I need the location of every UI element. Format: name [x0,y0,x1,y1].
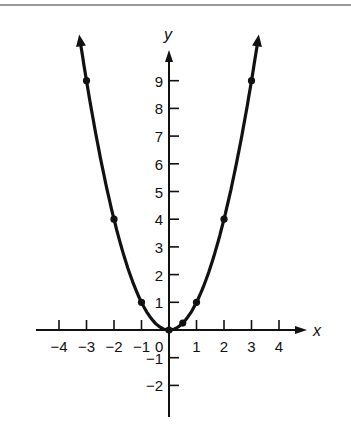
x-axis-label: x [312,322,322,339]
data-point [165,326,172,333]
x-tick-label: −4 [50,338,67,355]
x-tick-label: 1 [192,338,200,355]
y-tick-label: 5 [155,184,163,201]
data-point [110,216,117,223]
parabola-chart: −4−3−2−11234−2−1123456789 x y 0 [0,0,351,434]
ticks: −4−3−2−11234−2−1123456789 [50,73,283,395]
y-tick-label: 8 [155,100,163,117]
data-point [138,299,145,306]
x-tick-label: 4 [275,338,283,355]
data-point [193,299,200,306]
x-tick-label: 3 [247,338,255,355]
y-tick-label: 3 [155,239,163,256]
data-point [83,77,90,84]
data-point [179,319,186,326]
origin-label: 0 [155,338,163,355]
y-tick-label: 4 [155,211,163,228]
curve-left-arrow-icon [76,34,86,47]
y-tick-label: −2 [146,377,163,394]
axes [36,50,307,417]
y-axis-label: y [163,26,173,43]
y-tick-label: 9 [155,73,163,90]
x-tick-label: 2 [220,338,228,355]
x-axis-arrow-icon [295,326,307,334]
y-tick-label: 1 [155,294,163,311]
data-point [248,77,255,84]
y-axis-arrow-icon [165,50,173,62]
y-tick-label: 7 [155,128,163,145]
y-tick-label: 2 [155,267,163,284]
data-point [220,216,227,223]
y-tick-label: 6 [155,156,163,173]
x-tick-label: −3 [78,338,95,355]
x-tick-label: −2 [105,338,122,355]
curve-right-arrow-icon [252,34,262,47]
